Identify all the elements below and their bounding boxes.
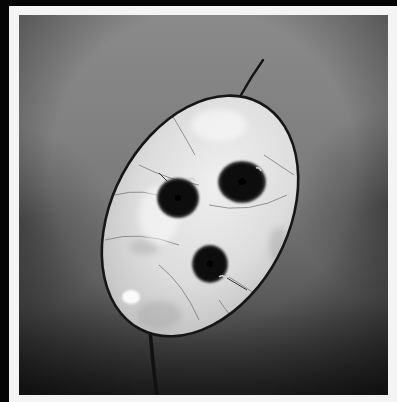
seed-left <box>157 178 199 218</box>
photo-canvas <box>19 15 388 395</box>
highlight-spot <box>122 290 140 304</box>
honesty-seed-pod-photo: Black and white photograph of a transluc… <box>19 15 388 395</box>
seed-lower <box>192 245 228 283</box>
